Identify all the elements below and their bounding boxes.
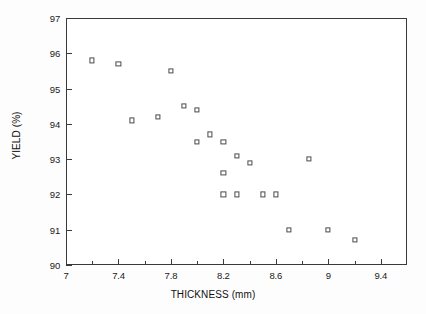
x-tick-major [328,259,329,265]
data-point [116,61,121,66]
x-tick-label: 8.6 [270,270,283,281]
y-tick-label: 95 [34,83,60,94]
scatter-plot-figure: 77.47.88.28.699.4 9091929394959697 THICK… [0,0,426,314]
y-tick-major [66,194,72,195]
data-point [181,104,186,109]
y-tick-major [66,89,72,90]
x-tick-minor [145,261,146,265]
data-point [221,139,226,144]
data-point [90,58,95,63]
y-tick-label: 96 [34,48,60,59]
y-tick-major [66,230,72,231]
y-tick-label: 94 [34,118,60,129]
y-tick-major [66,159,72,160]
x-tick-minor [355,261,356,265]
y-tick-label: 97 [34,13,60,24]
data-point [234,192,239,197]
x-tick-minor [302,261,303,265]
y-tick-label: 92 [34,189,60,200]
x-tick-major [276,259,277,265]
y-tick-label: 93 [34,154,60,165]
x-tick-label: 9 [326,270,331,281]
y-tick-major [66,18,72,19]
x-tick-label: 8.2 [217,270,230,281]
data-point [286,227,291,232]
data-point [221,192,226,197]
data-point [326,227,331,232]
data-point [352,238,357,243]
x-tick-minor [250,261,251,265]
data-point [155,114,160,119]
data-point [208,132,213,137]
data-point [273,192,278,197]
data-point [221,171,226,176]
data-point [234,153,239,158]
x-tick-label: 7.4 [112,270,125,281]
y-tick-major [66,53,72,54]
x-tick-major [171,259,172,265]
x-tick-label: 7 [63,270,68,281]
data-point [168,68,173,73]
x-tick-major [118,259,119,265]
y-tick-label: 90 [34,260,60,271]
data-point [247,160,252,165]
data-point [195,107,200,112]
x-tick-major [223,259,224,265]
x-tick-label: 7.8 [165,270,178,281]
y-axis-title: YIELD (%) [11,76,22,196]
x-tick-minor [92,261,93,265]
x-tick-label: 9.4 [374,270,387,281]
plot-area [66,18,407,265]
y-tick-label: 91 [34,224,60,235]
x-tick-minor [197,261,198,265]
data-point [195,139,200,144]
y-tick-major [66,124,72,125]
data-point [129,118,134,123]
x-tick-major [381,259,382,265]
y-tick-major [66,265,72,266]
data-point [260,192,265,197]
x-axis-title: THICKNESS (mm) [0,289,426,300]
data-point [306,157,311,162]
